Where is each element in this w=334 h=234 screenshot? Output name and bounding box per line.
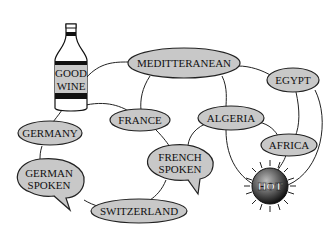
- edge-mediterranean-france: [141, 76, 150, 110]
- node-germany: GERMANY: [18, 121, 82, 145]
- node-label: SWITZERLAND: [100, 205, 178, 217]
- bubble-label-line2: SPOKEN: [28, 179, 71, 191]
- node-label: EGYPT: [275, 74, 311, 86]
- node-french-spoken: FRENCH SPOKEN: [148, 145, 214, 194]
- edge-egypt-africa: [295, 92, 299, 137]
- bubble-label-line1: GERMAN: [25, 167, 73, 179]
- node-algeria: ALGERIA: [198, 106, 264, 130]
- node-africa: AFRICA: [261, 134, 317, 156]
- edge-french-switzerland: [150, 180, 166, 200]
- edge-germany-german: [40, 146, 42, 160]
- edge-mediterranean-algeria: [222, 76, 226, 108]
- node-label: AFRICA: [269, 139, 309, 151]
- node-german-spoken: GERMAN SPOKEN: [17, 159, 84, 210]
- node-france: FRANCE: [110, 109, 170, 131]
- node-label: GERMANY: [22, 127, 78, 139]
- node-egypt: EGYPT: [267, 68, 319, 92]
- bubble-label-line1: FRENCH: [158, 151, 201, 163]
- bottle-good-wine: GOOD WINE: [55, 24, 87, 111]
- node-switzerland: SWITZERLAND: [91, 199, 187, 223]
- node-label: ALGERIA: [207, 112, 255, 124]
- edge-france-french: [156, 130, 170, 147]
- semantic-network-diagram: GOOD WINE MEDITTERANEAN EGYPT GERMANY FR…: [0, 0, 334, 234]
- edge-wine-mediterranean: [86, 62, 128, 78]
- edge-algeria-french: [188, 124, 205, 147]
- edge-algeria-africa: [258, 122, 278, 136]
- node-label: FRANCE: [118, 114, 162, 126]
- edge-mediterranean-egypt: [238, 66, 272, 76]
- node-label: MEDITTERANEAN: [137, 57, 231, 69]
- bottle-label-line2: WINE: [57, 80, 86, 92]
- node-label: HOT: [258, 180, 283, 192]
- bottle-label-line1: GOOD: [55, 67, 87, 79]
- edge-africa-hot: [278, 155, 286, 170]
- node-hot: HOT: [244, 160, 296, 212]
- bubble-label-line2: SPOKEN: [159, 163, 202, 175]
- node-mediterranean: MEDITTERANEAN: [128, 48, 240, 78]
